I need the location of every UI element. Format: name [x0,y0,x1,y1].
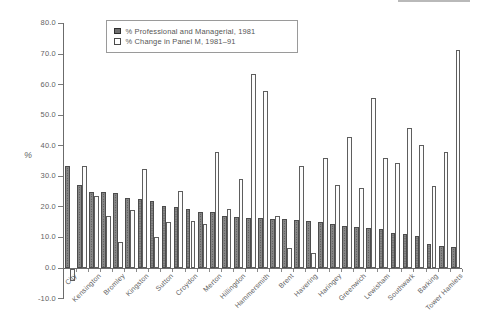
x-tick [112,269,113,272]
bar-change-2 [82,166,87,268]
x-tick [209,269,210,272]
legend-label: % Professional and Managerial, 1981 [126,27,256,36]
y-axis [63,23,64,299]
y-tick [58,176,63,177]
x-tick [124,269,125,272]
x-tick [233,269,234,272]
bar-prof-managerial-1 [65,166,70,268]
bar-change-23 [335,185,340,268]
bar-change-32 [444,152,449,268]
bar-change-24 [347,137,352,268]
x-tick [305,269,306,272]
x-category-label-croydon: Croydon [174,272,199,297]
x-tick [329,269,330,272]
x-tick [401,269,402,272]
x-tick [185,269,186,272]
x-tick [100,269,101,272]
x-tick [413,269,414,272]
bar-change-11 [191,221,196,268]
x-tick [438,269,439,272]
x-category-label-brent: Brent [277,272,294,289]
bar-change-29 [407,128,412,268]
legend-label: % Change in Panel M, 1981–91 [126,37,236,46]
y-tick-label: 50.0 [22,111,56,119]
x-tick [365,269,366,272]
bar-change-3 [94,196,99,268]
bar-change-12 [203,224,208,268]
x-tick [293,269,294,272]
y-tick [58,84,63,85]
x-category-label-sutton: Sutton [154,272,174,292]
y-tick-label: 10.0 [22,233,56,241]
bar-change-28 [395,163,400,268]
y-tick [58,54,63,55]
bar-change-13 [215,152,220,268]
bar-change-16 [251,74,256,268]
x-tick [245,269,246,272]
bar-change-5 [118,242,123,268]
bar-change-6 [130,210,135,268]
x-category-label-bromley: Bromley [102,272,126,296]
y-tick-label: 20.0 [22,203,56,211]
bar-change-9 [166,222,171,268]
y-tick-label: 30.0 [22,172,56,180]
x-tick [281,269,282,272]
x-tick [88,269,89,272]
x-tick [136,269,137,272]
bar-change-7 [142,169,147,268]
bar-change-4 [106,216,111,268]
bar-change-22 [323,158,328,268]
x-category-label-merton: Merton [201,272,222,293]
bar-change-14 [227,209,232,268]
x-category-label-kingston: Kingston [125,272,150,297]
y-tick [58,115,63,116]
bar-change-30 [419,145,424,268]
bar-change-20 [299,166,304,268]
bar-change-33 [456,50,461,268]
legend: % Professional and Managerial, 1981 % Ch… [106,20,298,53]
y-tick [58,268,63,269]
x-tick [462,269,463,272]
bar-change-26 [371,98,376,268]
legend-item-prof-managerial: % Professional and Managerial, 1981 [114,27,290,36]
x-tick [269,269,270,272]
x-tick [377,269,378,272]
x-tick [389,269,390,272]
y-tick-label: -10.0 [22,295,56,303]
x-tick [450,269,451,272]
bar-change-8 [154,237,159,268]
bar-change-21 [311,253,316,268]
y-tick [58,237,63,238]
x-tick [353,269,354,272]
y-tick [58,145,63,146]
y-tick-label: 70.0 [22,50,56,58]
x-tick [76,269,77,272]
x-tick [160,269,161,272]
y-axis-title: % [24,150,32,160]
y-tick [58,206,63,207]
bar-change-15 [239,179,244,268]
bar-change-17 [263,91,268,268]
x-tick [148,269,149,272]
bar-change-10 [178,191,183,268]
legend-item-change: % Change in Panel M, 1981–91 [114,37,290,46]
x-tick [257,269,258,272]
x-category-label-barking: Barking [417,272,440,295]
scan-artifact-line [398,0,470,2]
x-tick [317,269,318,272]
x-tick [197,269,198,272]
x-category-label-city: City [64,272,78,286]
x-tick [172,269,173,272]
x-tick [221,269,222,272]
bar-change-27 [383,158,388,268]
x-category-label-havering: Havering [293,272,319,298]
bar-change-25 [359,188,364,268]
chart-figure: % 80.070.060.050.040.030.020.010.00.0-10… [0,0,483,332]
y-tick-label: 40.0 [22,142,56,150]
bar-change-18 [275,216,280,268]
y-tick [58,298,63,299]
y-tick-label: 60.0 [22,81,56,89]
bar-change-31 [432,186,437,268]
x-tick [341,269,342,272]
y-tick-label: 0.0 [22,264,56,272]
